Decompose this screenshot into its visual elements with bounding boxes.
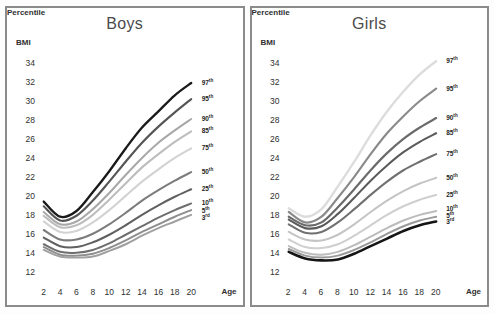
y-tick-boys-32: 32 <box>17 77 35 87</box>
series-label-boys-p50: 50th <box>202 169 214 176</box>
curve-girls-p90 <box>288 118 435 226</box>
series-label-girls-p75: 75th <box>446 151 458 158</box>
panel-boys: Boys BMI Percentile Age 3432302826242220… <box>5 6 245 307</box>
x-tick-boys-4: 4 <box>52 287 68 297</box>
y-tick-girls-24: 24 <box>262 153 280 163</box>
y-tick-boys-34: 34 <box>17 58 35 68</box>
y-tick-boys-30: 30 <box>17 96 35 106</box>
y-tick-girls-32: 32 <box>262 77 280 87</box>
series-label-boys-p3: 3rd <box>202 214 210 221</box>
y-tick-boys-20: 20 <box>17 191 35 201</box>
x-tick-boys-12: 12 <box>118 287 134 297</box>
series-label-girls-p3: 3rd <box>446 219 454 226</box>
series-label-boys-p85: 85th <box>202 128 214 135</box>
x-tick-girls-10: 10 <box>346 287 362 297</box>
y-tick-boys-22: 22 <box>17 172 35 182</box>
y-tick-girls-28: 28 <box>262 115 280 125</box>
y-tick-boys-26: 26 <box>17 134 35 144</box>
x-tick-boys-10: 10 <box>101 287 117 297</box>
series-label-girls-p95: 95th <box>446 85 458 92</box>
plot-area-boys <box>7 8 243 305</box>
series-label-girls-p85: 85th <box>446 130 458 137</box>
series-label-boys-p97: 97th <box>202 80 214 87</box>
x-tick-girls-20: 20 <box>428 287 444 297</box>
series-label-girls-p25: 25th <box>446 192 458 199</box>
y-tick-boys-18: 18 <box>17 210 35 220</box>
y-tick-girls-12: 12 <box>262 267 280 277</box>
x-tick-girls-12: 12 <box>362 287 378 297</box>
series-label-boys-p95: 95th <box>202 96 214 103</box>
x-tick-girls-16: 16 <box>395 287 411 297</box>
x-tick-girls-18: 18 <box>411 287 427 297</box>
y-tick-girls-26: 26 <box>262 134 280 144</box>
y-tick-girls-22: 22 <box>262 172 280 182</box>
x-tick-boys-8: 8 <box>85 287 101 297</box>
x-tick-boys-20: 20 <box>183 287 199 297</box>
y-tick-girls-20: 20 <box>262 191 280 201</box>
y-tick-girls-34: 34 <box>262 58 280 68</box>
y-tick-girls-14: 14 <box>262 248 280 258</box>
y-tick-girls-18: 18 <box>262 210 280 220</box>
bmi-percentile-figure: Boys BMI Percentile Age 3432302826242220… <box>0 0 494 314</box>
x-tick-boys-2: 2 <box>36 287 52 297</box>
x-tick-girls-14: 14 <box>379 287 395 297</box>
y-tick-boys-16: 16 <box>17 229 35 239</box>
x-tick-girls-8: 8 <box>329 287 345 297</box>
x-tick-girls-4: 4 <box>297 287 313 297</box>
series-label-boys-p25: 25th <box>202 186 214 193</box>
y-tick-girls-16: 16 <box>262 229 280 239</box>
y-tick-girls-30: 30 <box>262 96 280 106</box>
curve-boys-p97 <box>44 83 191 217</box>
series-label-girls-p97: 97th <box>446 58 458 65</box>
x-tick-girls-6: 6 <box>313 287 329 297</box>
series-label-girls-p90: 90th <box>446 115 458 122</box>
y-tick-boys-28: 28 <box>17 115 35 125</box>
x-tick-boys-16: 16 <box>150 287 166 297</box>
x-tick-boys-18: 18 <box>167 287 183 297</box>
curve-girls-p97 <box>288 61 435 217</box>
y-tick-boys-24: 24 <box>17 153 35 163</box>
panel-girls: Girls BMI Percentile Age 343230282624222… <box>250 6 490 307</box>
series-label-boys-p75: 75th <box>202 145 214 152</box>
series-label-boys-p90: 90th <box>202 116 214 123</box>
x-tick-boys-6: 6 <box>68 287 84 297</box>
series-label-girls-p50: 50th <box>446 175 458 182</box>
x-tick-girls-2: 2 <box>280 287 296 297</box>
x-tick-boys-14: 14 <box>134 287 150 297</box>
y-tick-boys-12: 12 <box>17 267 35 277</box>
y-tick-boys-14: 14 <box>17 248 35 258</box>
